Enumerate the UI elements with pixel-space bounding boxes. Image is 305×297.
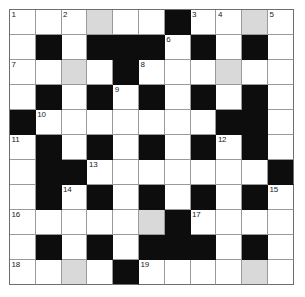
grid-block-cell xyxy=(87,85,113,110)
grid-letter-cell[interactable] xyxy=(216,85,242,110)
grid-letter-cell[interactable] xyxy=(216,235,242,260)
grid-letter-cell[interactable] xyxy=(10,185,36,210)
grid-letter-cell[interactable] xyxy=(87,10,113,35)
grid-letter-cell[interactable] xyxy=(191,110,217,135)
grid-letter-cell[interactable] xyxy=(165,135,191,160)
grid-letter-cell[interactable] xyxy=(191,60,217,85)
grid-letter-cell[interactable]: 4 xyxy=(216,10,242,35)
grid-letter-cell[interactable] xyxy=(87,60,113,85)
grid-letter-cell[interactable]: 10 xyxy=(36,110,62,135)
grid-block-cell xyxy=(113,260,139,285)
grid-letter-cell[interactable] xyxy=(165,60,191,85)
grid-letter-cell[interactable] xyxy=(87,210,113,235)
grid-letter-cell[interactable] xyxy=(36,260,62,285)
grid-letter-cell[interactable] xyxy=(113,160,139,185)
grid-letter-cell[interactable] xyxy=(242,160,268,185)
grid-letter-cell[interactable] xyxy=(268,85,294,110)
grid-block-cell xyxy=(36,160,62,185)
grid-letter-cell[interactable] xyxy=(165,185,191,210)
crossword-grid[interactable]: 12345678910111213141516171819 xyxy=(9,9,294,285)
grid-letter-cell[interactable]: 16 xyxy=(10,210,36,235)
grid-letter-cell[interactable] xyxy=(10,35,36,60)
grid-letter-cell[interactable] xyxy=(10,160,36,185)
grid-letter-cell[interactable] xyxy=(165,160,191,185)
grid-block-cell xyxy=(36,185,62,210)
grid-letter-cell[interactable] xyxy=(191,160,217,185)
grid-letter-cell[interactable] xyxy=(268,135,294,160)
clue-number: 12 xyxy=(218,135,227,144)
grid-letter-cell[interactable] xyxy=(62,260,88,285)
grid-letter-cell[interactable]: 2 xyxy=(62,10,88,35)
grid-letter-cell[interactable]: 13 xyxy=(87,160,113,185)
grid-letter-cell[interactable] xyxy=(62,235,88,260)
grid-letter-cell[interactable]: 12 xyxy=(216,135,242,160)
grid-letter-cell[interactable] xyxy=(62,110,88,135)
grid-letter-cell[interactable]: 6 xyxy=(165,35,191,60)
grid-letter-cell[interactable] xyxy=(87,260,113,285)
grid-letter-cell[interactable] xyxy=(10,85,36,110)
grid-letter-cell[interactable] xyxy=(139,160,165,185)
grid-letter-cell[interactable]: 9 xyxy=(113,85,139,110)
grid-letter-cell[interactable] xyxy=(139,110,165,135)
grid-letter-cell[interactable]: 8 xyxy=(139,60,165,85)
grid-letter-cell[interactable]: 1 xyxy=(10,10,36,35)
grid-letter-cell[interactable] xyxy=(268,60,294,85)
grid-letter-cell[interactable] xyxy=(216,210,242,235)
grid-letter-cell[interactable] xyxy=(10,235,36,260)
grid-letter-cell[interactable] xyxy=(62,210,88,235)
crossword-puzzle: 12345678910111213141516171819 xyxy=(0,0,305,297)
grid-letter-cell[interactable] xyxy=(113,10,139,35)
grid-letter-cell[interactable] xyxy=(165,110,191,135)
grid-letter-cell[interactable] xyxy=(216,260,242,285)
grid-block-cell xyxy=(36,135,62,160)
grid-letter-cell[interactable] xyxy=(268,235,294,260)
grid-block-cell xyxy=(242,110,268,135)
clue-number: 13 xyxy=(89,160,98,169)
grid-letter-cell[interactable] xyxy=(113,210,139,235)
grid-letter-cell[interactable]: 11 xyxy=(10,135,36,160)
grid-letter-cell[interactable]: 18 xyxy=(10,260,36,285)
grid-letter-cell[interactable] xyxy=(113,235,139,260)
clue-number: 17 xyxy=(192,210,201,219)
grid-letter-cell[interactable] xyxy=(268,35,294,60)
grid-letter-cell[interactable] xyxy=(242,10,268,35)
grid-letter-cell[interactable] xyxy=(191,260,217,285)
grid-block-cell xyxy=(165,210,191,235)
grid-letter-cell[interactable]: 17 xyxy=(191,210,217,235)
grid-letter-cell[interactable] xyxy=(36,60,62,85)
grid-letter-cell[interactable]: 5 xyxy=(268,10,294,35)
grid-letter-cell[interactable]: 7 xyxy=(10,60,36,85)
grid-letter-cell[interactable]: 15 xyxy=(268,185,294,210)
grid-letter-cell[interactable]: 19 xyxy=(139,260,165,285)
grid-letter-cell[interactable] xyxy=(242,210,268,235)
grid-letter-cell[interactable] xyxy=(216,160,242,185)
grid-letter-cell[interactable] xyxy=(216,60,242,85)
grid-letter-cell[interactable] xyxy=(268,260,294,285)
grid-letter-cell[interactable] xyxy=(268,210,294,235)
grid-block-cell xyxy=(139,235,165,260)
grid-letter-cell[interactable] xyxy=(139,210,165,235)
grid-letter-cell[interactable] xyxy=(62,85,88,110)
grid-letter-cell[interactable] xyxy=(113,185,139,210)
grid-letter-cell[interactable] xyxy=(113,135,139,160)
grid-letter-cell[interactable] xyxy=(242,260,268,285)
grid-letter-cell[interactable] xyxy=(36,10,62,35)
grid-letter-cell[interactable] xyxy=(242,60,268,85)
grid-letter-cell[interactable]: 3 xyxy=(191,10,217,35)
grid-block-cell xyxy=(87,35,113,60)
grid-letter-cell[interactable] xyxy=(113,110,139,135)
grid-letter-cell[interactable] xyxy=(165,260,191,285)
grid-letter-cell[interactable] xyxy=(36,210,62,235)
grid-letter-cell[interactable] xyxy=(139,10,165,35)
grid-letter-cell[interactable] xyxy=(216,35,242,60)
grid-letter-cell[interactable] xyxy=(62,60,88,85)
grid-letter-cell[interactable] xyxy=(165,85,191,110)
grid-letter-cell[interactable] xyxy=(62,135,88,160)
grid-block-cell xyxy=(87,135,113,160)
grid-letter-cell[interactable]: 14 xyxy=(62,185,88,210)
grid-letter-cell[interactable] xyxy=(216,185,242,210)
grid-letter-cell[interactable] xyxy=(268,110,294,135)
grid-letter-cell[interactable] xyxy=(87,110,113,135)
clue-number: 16 xyxy=(12,210,21,219)
grid-letter-cell[interactable] xyxy=(62,35,88,60)
